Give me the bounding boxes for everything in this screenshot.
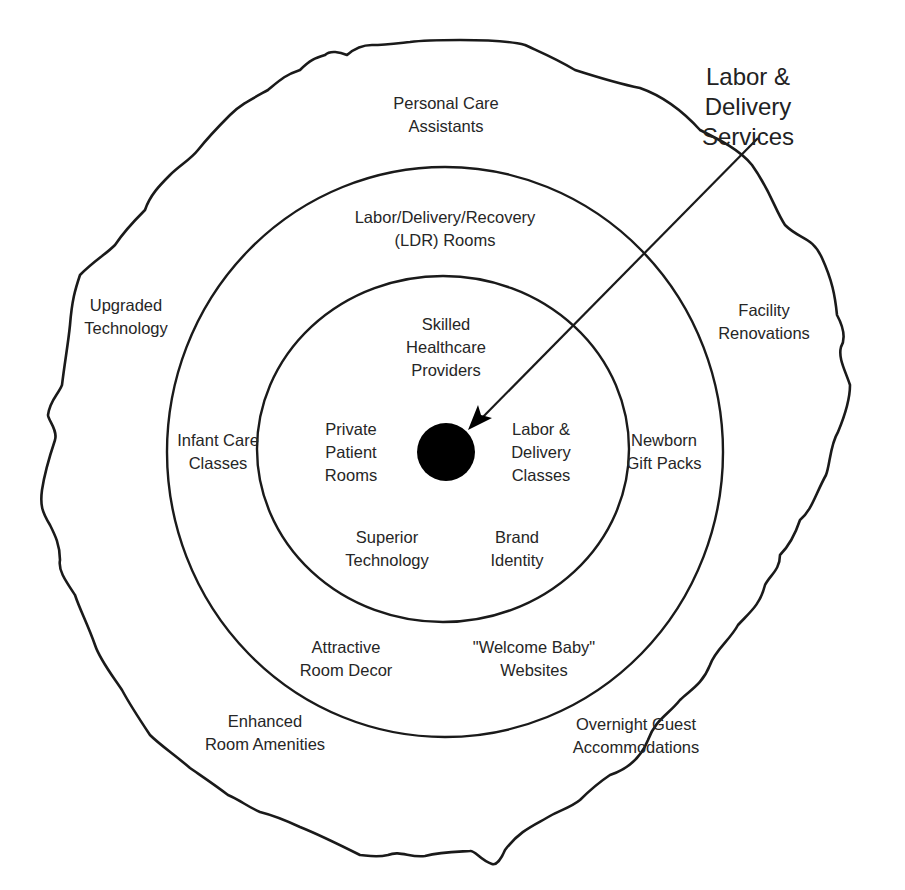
label-labor-delivery-classes: Labor & Delivery Classes — [511, 418, 571, 487]
callout-arrow-line — [478, 138, 758, 422]
callout-arrowhead-icon — [468, 405, 492, 430]
callout-label: Labor & Delivery Services — [670, 62, 827, 152]
label-ldr-rooms: Labor/Delivery/Recovery (LDR) Rooms — [355, 206, 536, 252]
label-facility-renovations: Facility Renovations — [718, 299, 810, 345]
label-brand-identity: Brand Identity — [490, 526, 543, 572]
label-attractive-room-decor: Attractive Room Decor — [300, 636, 393, 682]
label-upgraded-technology: Upgraded Technology — [84, 294, 167, 340]
core-benefit-dot — [417, 423, 475, 481]
label-personal-care-assistants: Personal Care Assistants — [393, 92, 498, 138]
label-superior-technology: Superior Technology — [345, 526, 428, 572]
label-infant-care-classes: Infant Care Classes — [177, 429, 259, 475]
label-overnight-guest-accommodations: Overnight Guest Accommodations — [573, 713, 700, 759]
label-enhanced-room-amenities: Enhanced Room Amenities — [205, 710, 325, 756]
label-newborn-gift-packs: Newborn Gift Packs — [626, 429, 701, 475]
label-private-patient-rooms: Private Patient Rooms — [325, 418, 377, 487]
label-welcome-baby-websites: "Welcome Baby" Websites — [473, 636, 595, 682]
label-skilled-healthcare-providers: Skilled Healthcare Providers — [406, 313, 486, 382]
